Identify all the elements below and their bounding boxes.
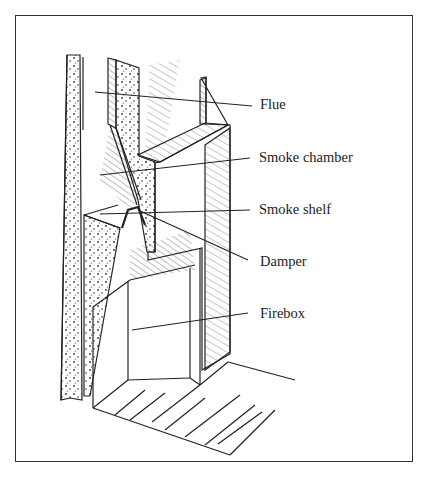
label-firebox: Firebox bbox=[260, 306, 305, 321]
label-damper: Damper bbox=[260, 254, 307, 269]
label-smoke-chamber: Smoke chamber bbox=[259, 150, 353, 165]
label-flue: Flue bbox=[260, 97, 286, 112]
label-smoke-shelf: Smoke shelf bbox=[259, 202, 331, 217]
fireplace-drawing bbox=[0, 0, 429, 484]
